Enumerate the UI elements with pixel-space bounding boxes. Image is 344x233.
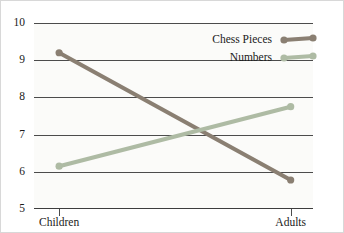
x-axis-line (34, 208, 313, 209)
gridline-5 (34, 209, 313, 210)
y-tick-label: 9 (1, 54, 25, 66)
legend-label: Chess Pieces (212, 33, 272, 45)
y-tick-label: 8 (1, 92, 25, 104)
y-tick-label: 10 (1, 17, 25, 29)
legend-swatch-icon (279, 51, 319, 63)
x-tick-label-children: Children (39, 217, 79, 229)
legend-item-chess-pieces: Chess Pieces (187, 31, 319, 47)
y-tick-label: 7 (1, 129, 25, 141)
x-tick-mark (291, 209, 292, 216)
y-tick-label: 6 (1, 166, 25, 178)
chart-figure: 5678910 ChildrenAdults Chess PiecesNumbe… (0, 0, 344, 233)
data-point-marker (287, 103, 294, 110)
legend-label: Numbers (230, 51, 272, 63)
data-point-marker (56, 163, 63, 170)
chart-legend: Chess PiecesNumbers (187, 31, 319, 67)
y-tick-label: 5 (1, 203, 25, 215)
x-tick-label-adults: Adults (275, 217, 306, 229)
data-point-marker (287, 176, 294, 183)
x-tick-mark (59, 209, 60, 216)
data-point-marker (56, 49, 63, 56)
legend-swatch-icon (279, 33, 319, 45)
legend-item-numbers: Numbers (187, 49, 319, 65)
